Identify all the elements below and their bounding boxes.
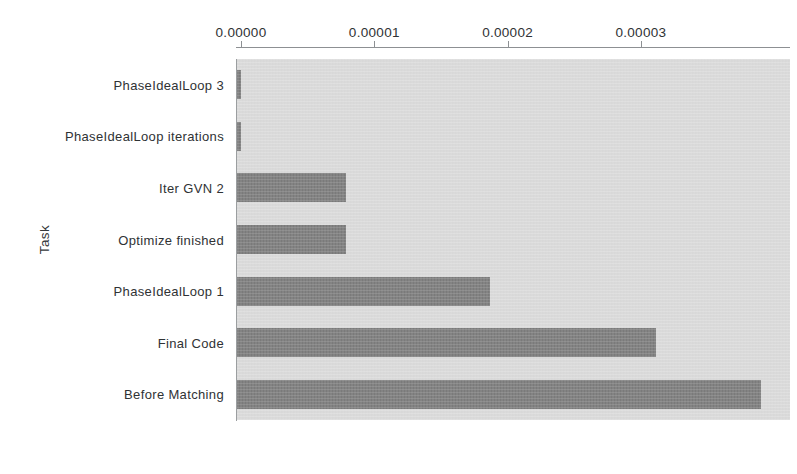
x-axis-tick-label: 0.00001 xyxy=(349,25,400,40)
x-axis-line xyxy=(236,47,790,48)
bar xyxy=(237,173,346,202)
x-axis-tick-mark xyxy=(508,41,509,47)
x-axis-tick-mark xyxy=(241,41,242,47)
bar xyxy=(237,70,241,99)
x-axis-tick-mark xyxy=(374,41,375,47)
y-axis-tick-label: PhaseIdealLoop 3 xyxy=(114,77,224,92)
bar xyxy=(237,380,761,409)
x-axis-tick-mark xyxy=(641,41,642,47)
y-axis-tick-label: Before Matching xyxy=(124,387,224,402)
y-axis-tick-label: Iter GVN 2 xyxy=(159,180,224,195)
bar xyxy=(237,277,490,306)
y-axis-tick-label: Optimize finished xyxy=(118,232,224,247)
x-axis-tick-label: 0.00003 xyxy=(615,25,666,40)
y-axis-tick-label-group: PhaseIdealLoop 3PhaseIdealLoop iteration… xyxy=(0,0,236,474)
y-axis-tick-label: PhaseIdealLoop 1 xyxy=(114,284,224,299)
x-axis-tick-label: 0.00002 xyxy=(482,25,533,40)
bar xyxy=(237,328,656,357)
bar xyxy=(237,225,346,254)
y-axis-tick-label: Final Code xyxy=(158,335,224,350)
y-axis-tick-label: PhaseIdealLoop iterations xyxy=(65,129,224,144)
plot-area xyxy=(237,59,790,420)
bar-chart-figure: Task 0.000000.000010.000020.00003 PhaseI… xyxy=(0,0,797,474)
bar xyxy=(237,122,241,151)
